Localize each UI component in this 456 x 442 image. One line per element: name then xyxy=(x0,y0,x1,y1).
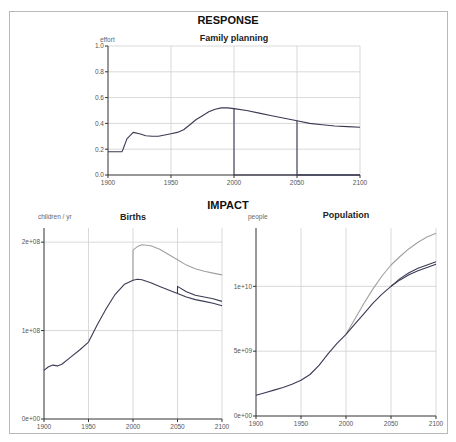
x-tick-label: 1950 xyxy=(294,420,309,427)
y-tick-label: 2e+08 xyxy=(22,238,41,245)
x-tick-label: 2000 xyxy=(126,423,141,430)
x-tick-label: 1900 xyxy=(101,179,116,186)
series-line xyxy=(178,286,223,301)
x-tick-label: 1950 xyxy=(81,423,96,430)
series-line xyxy=(297,121,360,175)
chart-title: Family planning xyxy=(200,33,269,43)
x-tick-label: 2050 xyxy=(170,423,185,430)
y-tick-label: 1e+10 xyxy=(234,283,253,290)
y-axis-unit-label: children / yr xyxy=(38,213,72,221)
figure-canvas: RESPONSE IMPACT Family planningeffort190… xyxy=(0,0,456,442)
chart-title: Population xyxy=(323,210,370,220)
x-tick-label: 2100 xyxy=(429,420,444,427)
series-line xyxy=(391,262,436,287)
x-tick-label: 1950 xyxy=(164,179,179,186)
section-title-impact: IMPACT xyxy=(207,199,249,211)
y-tick-label: 1e+08 xyxy=(22,327,41,334)
y-tick-label: 0.0 xyxy=(95,171,104,178)
x-tick-label: 2000 xyxy=(227,179,242,186)
x-tick-label: 2100 xyxy=(215,423,230,430)
x-tick-label: 1900 xyxy=(37,423,52,430)
y-tick-label: 0e+00 xyxy=(234,412,253,419)
x-tick-label: 2050 xyxy=(290,179,305,186)
x-tick-label: 2100 xyxy=(353,179,368,186)
y-tick-label: 5e+09 xyxy=(234,347,253,354)
y-tick-label: 1.0 xyxy=(95,42,104,49)
chart-births: Birthschildren / yr190019502000205021000… xyxy=(22,212,230,430)
section-title-response: RESPONSE xyxy=(197,14,258,26)
y-tick-label: 0.8 xyxy=(95,68,104,75)
x-tick-label: 1900 xyxy=(249,420,264,427)
x-tick-label: 2000 xyxy=(339,420,354,427)
y-tick-label: 0.2 xyxy=(95,146,104,153)
y-axis-unit-label: people xyxy=(248,213,268,221)
y-tick-label: 0.6 xyxy=(95,94,104,101)
y-tick-label: 0e+00 xyxy=(22,415,41,422)
chart-population: Populationpeople190019502000205021000e+0… xyxy=(234,210,444,427)
y-tick-label: 0.4 xyxy=(95,120,104,127)
chart-family-planning: Family planningeffort1900195020002050210… xyxy=(95,33,368,186)
x-tick-label: 2050 xyxy=(384,420,399,427)
chart-title: Births xyxy=(120,212,146,222)
